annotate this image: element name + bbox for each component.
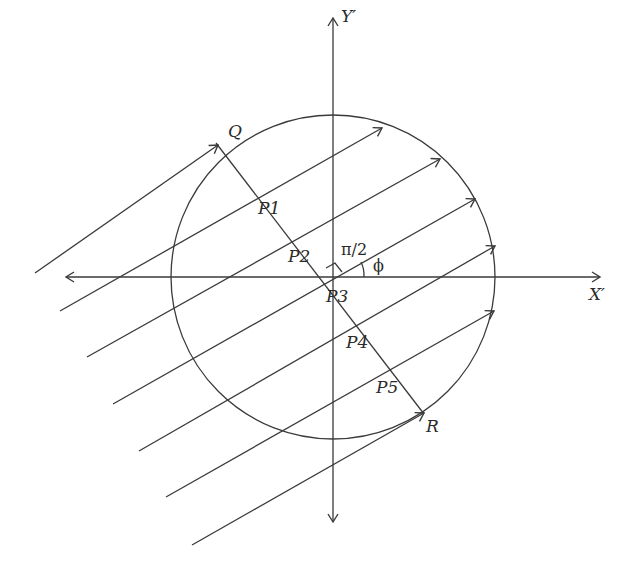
- projection-diagram: Y′ X′ Q R P1 P2 P3 P4 P5 π/2 ϕ: [0, 0, 641, 573]
- ray-1: [35, 145, 218, 273]
- ray-7: [192, 413, 424, 545]
- x-axis-label: X′: [587, 284, 605, 304]
- right-angle-label: π/2: [341, 240, 367, 259]
- ray-6: [166, 311, 494, 497]
- phi-label: ϕ: [373, 256, 384, 275]
- ray-3: [87, 159, 440, 357]
- ray-4: [113, 199, 475, 404]
- point-p1-label: P1: [257, 198, 280, 218]
- y-axis-label: Y′: [341, 6, 356, 26]
- right-angle-marker: [326, 263, 342, 272]
- point-p4-label: P4: [345, 332, 368, 352]
- point-p5-label: P5: [375, 377, 398, 397]
- parallel-rays: [35, 128, 495, 545]
- q-r-line: [216, 143, 424, 414]
- point-p3-label: P3: [325, 286, 348, 306]
- ray-2: [60, 128, 382, 311]
- point-r-label: R: [425, 416, 439, 436]
- phi-arc: [361, 262, 364, 277]
- point-p2-label: P2: [287, 246, 310, 266]
- point-q-label: Q: [228, 121, 242, 141]
